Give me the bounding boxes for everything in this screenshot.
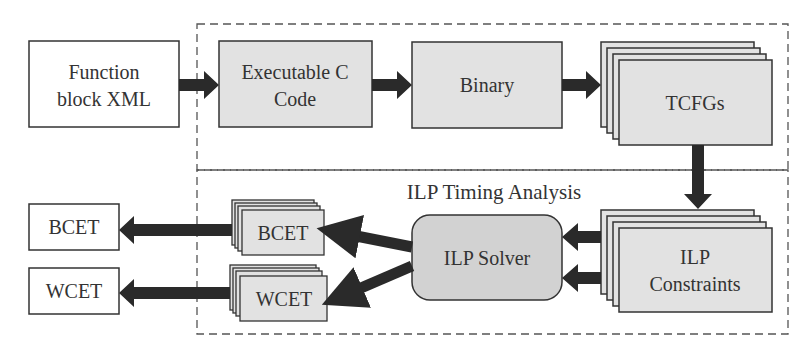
tcfgs-node-stack: TCFGs [601,42,772,145]
node-label-line1: ILP [680,246,710,268]
function-block-xml-node: Function block XML [29,41,179,127]
arrow-constraints-to-solver-2 [562,264,601,292]
node-label: ILP Solver [444,247,531,269]
node-label-line2: Constraints [649,273,740,295]
node-label: Binary [460,74,514,97]
node-label: WCET [46,280,103,302]
arrow-wcet-stack-to-wcet [119,279,230,307]
node-label: TCFGs [666,92,725,114]
binary-node: Binary [412,42,562,128]
bcet-result-stack: BCET [232,200,324,255]
bcet-output-node: BCET [29,204,119,250]
wcet-result-stack: WCET [230,265,327,321]
node-label: BCET [48,216,99,238]
arrow-binary-to-tcfgs [562,71,601,99]
node-label-line1: Executable C [241,61,348,83]
node-label-line2: block XML [57,88,151,110]
arrow-function-to-exec [179,71,219,99]
arrow-bcet-stack-to-bcet [119,216,232,244]
node-label-line2: Code [274,88,316,110]
arrow-exec-to-binary [372,71,412,99]
ilp-constraints-node-stack: ILP Constraints [601,210,772,312]
wcet-output-node: WCET [29,268,119,314]
arrow-tcfgs-to-constraints [684,145,712,209]
executable-c-code-node: Executable C Code [219,41,372,127]
ilp-solver-node: ILP Solver [412,215,562,300]
group-label: ILP Timing Analysis [407,180,581,204]
arrow-constraints-to-solver-1 [562,223,601,251]
arrow-solver-to-wcet-stack [340,266,412,297]
node-label-line1: Function [68,61,139,83]
arrow-solver-to-bcet-stack [336,232,412,247]
node-label: WCET [256,288,313,310]
node-label: BCET [257,222,308,244]
timing-analysis-diagram: ILP Timing Analysis Function block XML E… [0,0,811,360]
